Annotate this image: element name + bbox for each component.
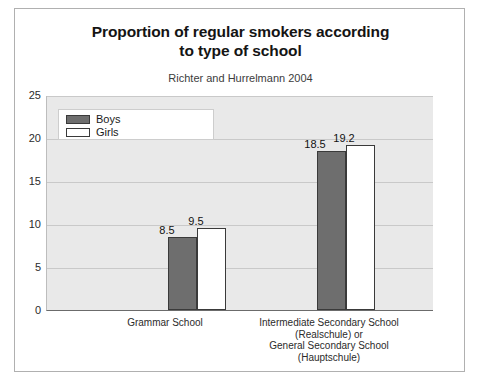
y-axis-tick-10: 10: [11, 218, 41, 230]
legend-swatch-boys-icon: [66, 115, 90, 124]
gridline-10: [47, 225, 433, 226]
y-axis-tick-15: 15: [11, 175, 41, 187]
x-axis-category-secondary-school: Intermediate Secondary School (Realschul…: [241, 317, 417, 363]
legend-item-boys[interactable]: Boys: [66, 113, 213, 125]
value-label-boys-grammar-school: 8.5: [152, 224, 182, 236]
y-axis-tick-25: 25: [11, 89, 41, 101]
gridline-25: [47, 96, 433, 97]
value-label-boys-secondary-school: 18.5: [300, 138, 330, 150]
chart-title: Proportion of regular smokers according …: [15, 22, 466, 60]
legend-item-girls[interactable]: Girls: [66, 126, 213, 138]
chart-title-line-1: Proportion of regular smokers according: [15, 22, 466, 41]
gridline-5: [47, 268, 433, 269]
value-label-girls-secondary-school: 19.2: [329, 132, 359, 144]
bar-girls-secondary-school[interactable]: [346, 145, 375, 310]
x-axis-category-grammar-school: Grammar School: [105, 317, 225, 329]
chart-frame: Proportion of regular smokers according …: [14, 8, 465, 372]
bar-girls-grammar-school[interactable]: [197, 228, 226, 310]
legend-label-boys: Boys: [96, 114, 120, 125]
chart-subtitle: Richter and Hurrelmann 2004: [15, 72, 466, 84]
value-label-girls-grammar-school: 9.5: [181, 215, 211, 227]
y-axis-tick-0: 0: [11, 304, 41, 316]
legend-label-girls: Girls: [96, 127, 119, 138]
chart-title-line-2: to type of school: [15, 41, 466, 60]
gridline-15: [47, 182, 433, 183]
y-axis-tick-20: 20: [11, 132, 41, 144]
y-axis-tick-5: 5: [11, 261, 41, 273]
bar-boys-grammar-school[interactable]: [168, 237, 197, 310]
bar-boys-secondary-school[interactable]: [317, 151, 346, 310]
legend-swatch-girls-icon: [66, 128, 90, 137]
chart-legend: Boys Girls: [58, 109, 214, 140]
